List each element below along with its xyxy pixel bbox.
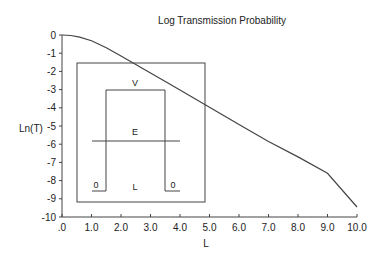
x-tick-label: 1.0 [85, 222, 99, 233]
x-tick-label: 4.0 [173, 222, 187, 233]
y-tick-label: -1 [47, 48, 56, 59]
chart: Log Transmission Probability Ln(T) L 0-1… [0, 0, 385, 262]
inset-diagram: V E L 0 0 [77, 63, 205, 202]
x-tick-label: 2.0 [114, 222, 128, 233]
x-tick-label: 7.0 [262, 222, 276, 233]
y-tick-label: -3 [47, 84, 56, 95]
y-tick-label: -7 [47, 157, 56, 168]
x-tick-label: 3.0 [144, 222, 158, 233]
x-tick-label: 10.0 [347, 222, 367, 233]
y-tick-label: -8 [47, 175, 56, 186]
y-tick-label: -2 [47, 66, 56, 77]
y-tick-label: -5 [47, 121, 56, 132]
energy-label: E [132, 127, 138, 137]
y-tick-label: 0 [50, 30, 56, 41]
y-tick-label: -6 [47, 139, 56, 150]
chart-title: Log Transmission Probability [158, 15, 286, 26]
y-tick-label: -4 [47, 102, 56, 113]
width-label: L [132, 182, 137, 192]
x-tick-label: .0 [58, 222, 67, 233]
x-axis-label: L [203, 238, 209, 249]
x-tick-label: 8.0 [291, 222, 305, 233]
y-tick-label: -9 [47, 193, 56, 204]
x-tick-label: 6.0 [232, 222, 246, 233]
barrier-height-label: V [132, 78, 138, 88]
x-tick-label: 9.0 [321, 222, 335, 233]
x-tick-label: 5.0 [203, 222, 217, 233]
y-tick-label: -10 [42, 212, 57, 223]
left-zero-label: 0 [93, 180, 98, 190]
y-axis-label: Ln(T) [19, 123, 43, 134]
right-zero-label: 0 [170, 180, 175, 190]
